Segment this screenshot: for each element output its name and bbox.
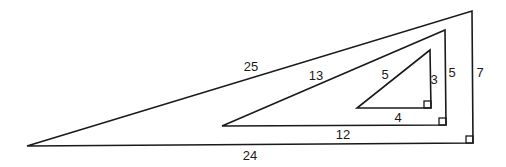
right-angle-marker-middle [439,118,446,125]
triangle-inner: 5 4 3 [357,50,438,125]
label-outer-height: 7 [476,65,483,80]
label-outer-hypotenuse: 25 [244,59,258,74]
label-middle-height: 5 [448,65,455,80]
label-inner-base: 4 [394,110,401,125]
triangle-inner-shape [357,50,431,108]
triangle-outer: 25 24 7 [27,11,484,163]
label-middle-base: 12 [336,127,350,142]
triangle-middle-shape [222,30,446,126]
right-angle-marker-outer [466,136,473,143]
right-angle-marker-inner [424,101,431,108]
label-outer-base: 24 [243,148,257,163]
label-inner-hypotenuse: 5 [381,67,388,82]
label-middle-hypotenuse: 13 [309,68,323,83]
label-inner-height: 3 [430,72,437,87]
triangle-middle: 13 12 5 [222,30,456,142]
nested-right-triangles-diagram: 25 24 7 13 12 5 5 4 3 [0,0,506,167]
